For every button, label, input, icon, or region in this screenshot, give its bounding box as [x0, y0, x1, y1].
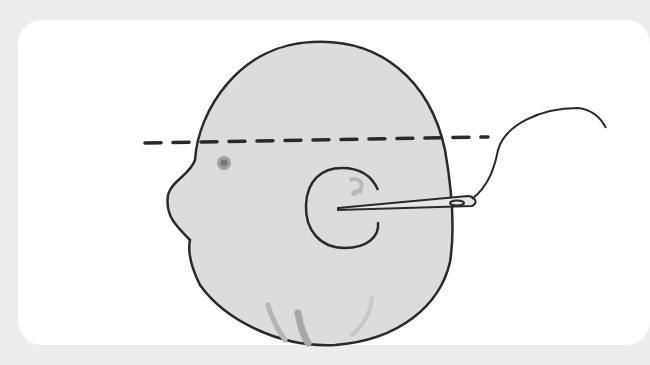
- eye-pupil: [221, 160, 228, 167]
- thread: [472, 108, 606, 199]
- head-shape: [167, 42, 452, 345]
- head-illustration: [0, 0, 650, 365]
